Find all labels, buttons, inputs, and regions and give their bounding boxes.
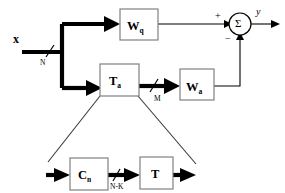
block-label-wa: Wa — [186, 77, 202, 96]
dimension-label-n: N — [40, 58, 45, 67]
block-label-wa-main: W — [186, 80, 199, 94]
block-label-t: T — [151, 164, 159, 183]
dimension-label-m: M — [154, 94, 161, 103]
expansion-line-right — [138, 96, 196, 164]
block-label-wq-main: W — [127, 19, 140, 33]
block-label-wq-subscript: q — [140, 26, 144, 35]
plus-sign-label: + — [215, 10, 221, 21]
block-diagram: x N Wq Ta Wa M Cn T N-K + − Σ y — [0, 0, 285, 193]
arrowhead-into-t — [124, 168, 140, 182]
minus-sign-label: − — [225, 33, 231, 44]
block-label-ta: Ta — [109, 71, 121, 90]
block-label-ta-subscript: a — [117, 81, 121, 90]
arrowhead-into-cn — [54, 168, 70, 182]
block-label-cn: Cn — [78, 165, 91, 184]
arrowhead-into-wa — [164, 78, 180, 94]
dimension-label-nk: N-K — [110, 182, 123, 191]
expansion-line-left — [48, 96, 100, 162]
block-label-t-main: T — [151, 167, 159, 181]
block-label-cn-subscript: n — [87, 175, 91, 184]
sigma-symbol: Σ — [235, 17, 241, 29]
input-signal-label: x — [13, 32, 19, 47]
arrowhead-into-wq — [104, 16, 120, 32]
arrowhead-output — [271, 20, 280, 28]
block-label-wq: Wq — [127, 16, 144, 35]
arrowhead-subdiagram-out — [180, 168, 196, 182]
block-label-cn-main: C — [78, 168, 87, 182]
block-label-wa-subscript: a — [199, 87, 203, 96]
output-signal-label: y — [256, 6, 260, 17]
